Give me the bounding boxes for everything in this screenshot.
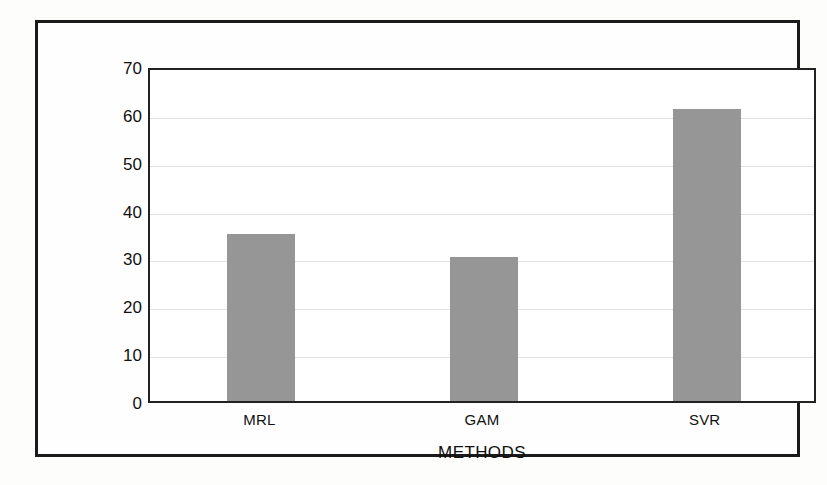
y-axis-tick-label: 30 (98, 251, 142, 268)
y-axis-tick-label: 70 (98, 60, 142, 77)
y-axis-tick-label: 60 (98, 107, 142, 124)
bar (450, 257, 518, 401)
figure-page: EXPLAINED VARIANCE (%) 010203040506070 M… (0, 0, 827, 485)
x-axis-tick-label: MRL (199, 411, 319, 428)
y-axis-tick-labels: 010203040506070 (94, 68, 142, 403)
y-axis-tick-label: 50 (98, 155, 142, 172)
y-axis-tick-label: 10 (98, 347, 142, 364)
y-axis-tick-label: 40 (98, 203, 142, 220)
y-axis-tick-label: 0 (98, 395, 142, 412)
x-axis-title: METHODS (148, 443, 816, 463)
plot-area (148, 68, 816, 403)
bar (227, 234, 295, 402)
bar (673, 109, 741, 401)
x-axis-tick-label: GAM (422, 411, 542, 428)
y-axis-tick-label: 20 (98, 299, 142, 316)
figure-frame: EXPLAINED VARIANCE (%) 010203040506070 M… (35, 20, 800, 457)
x-axis-tick-label: SVR (645, 411, 765, 428)
